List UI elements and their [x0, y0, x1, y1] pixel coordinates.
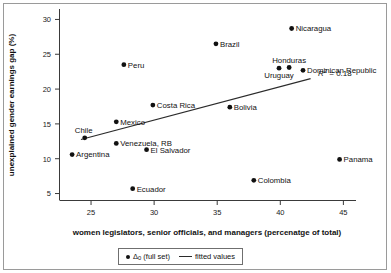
- point-label: Argentina: [76, 150, 110, 159]
- legend-marker-icon: [126, 255, 130, 259]
- y-tick-label: 5: [47, 189, 51, 198]
- point-marker: [150, 103, 155, 108]
- x-tick-label: 40: [276, 208, 284, 217]
- x-tick-label: 35: [213, 208, 221, 217]
- point-marker: [301, 68, 306, 73]
- point-marker: [144, 147, 149, 152]
- x-tick-label: 25: [87, 208, 95, 217]
- y-tick-label: 10: [43, 155, 51, 164]
- point-marker: [114, 141, 119, 146]
- point-label: Costa Rica: [157, 101, 196, 110]
- x-tick-label: 45: [339, 208, 347, 217]
- point-marker: [214, 41, 219, 46]
- data-point[interactable]: Mexico: [114, 118, 146, 127]
- point-marker: [287, 65, 292, 70]
- point-label: El Salvador: [151, 146, 191, 155]
- point-marker: [70, 152, 75, 157]
- y-tick-label: 15: [43, 120, 51, 129]
- point-marker: [114, 119, 119, 124]
- point-marker: [82, 135, 87, 140]
- data-point[interactable]: Chile: [75, 126, 93, 140]
- point-marker: [337, 157, 342, 162]
- data-point[interactable]: El Salvador: [144, 146, 191, 155]
- data-point[interactable]: Peru: [121, 61, 144, 70]
- y-tick-label: 30: [43, 15, 51, 24]
- y-tick-label: 25: [43, 50, 51, 59]
- point-label: Nicaragua: [296, 24, 332, 33]
- data-point[interactable]: Argentina: [70, 150, 110, 159]
- legend-item-fitted[interactable]: fitted values: [179, 252, 235, 261]
- legend-item-scatter[interactable]: Δ0 (full set): [126, 252, 170, 261]
- r-squared-annotation: R2 = 0.18: [318, 68, 352, 78]
- legend-label-fitted: fitted values: [195, 252, 235, 261]
- y-axis-ticks: 51015202530: [43, 15, 60, 198]
- point-label: Uruguay: [264, 71, 294, 80]
- y-axis-title: unexplained gender earnings gap (%): [7, 34, 16, 177]
- point-marker: [289, 26, 294, 31]
- fitted-values-line: [81, 79, 311, 140]
- data-point[interactable]: Ecuador: [130, 185, 166, 194]
- figure-container: 51015202530 2530354045 ArgentinaChileMex…: [0, 0, 391, 273]
- data-point[interactable]: Bolivia: [227, 103, 257, 112]
- point-marker: [130, 186, 135, 191]
- point-label: Peru: [128, 61, 144, 70]
- point-marker: [227, 105, 232, 110]
- x-axis-ticks: 2530354045: [87, 201, 348, 218]
- y-tick-label: 20: [43, 85, 51, 94]
- point-label: Brazil: [220, 40, 240, 49]
- chart-legend: Δ0 (full set) fitted values: [118, 248, 243, 265]
- point-label: Honduras: [272, 56, 306, 65]
- point-label: Mexico: [120, 118, 145, 127]
- data-point[interactable]: Costa Rica: [150, 101, 195, 110]
- legend-line-icon: [179, 256, 192, 257]
- point-label: Bolivia: [234, 103, 258, 112]
- point-label: Panama: [344, 155, 374, 164]
- x-tick-label: 30: [150, 208, 158, 217]
- data-points-group: ArgentinaChileMexicoVenezuela, RBPeruEcu…: [70, 24, 377, 193]
- x-axis-title: women legislators, senior officials, and…: [72, 228, 342, 237]
- point-label: Chile: [75, 126, 93, 135]
- data-point[interactable]: Panama: [337, 155, 373, 164]
- data-point[interactable]: Nicaragua: [289, 24, 332, 33]
- point-marker: [121, 62, 126, 67]
- point-label: Colombia: [258, 176, 292, 185]
- point-marker: [251, 178, 256, 183]
- data-point[interactable]: Colombia: [251, 176, 291, 185]
- legend-label-scatter: Δ0 (full set): [133, 252, 170, 261]
- data-point[interactable]: Brazil: [214, 40, 240, 49]
- fit-line-segment: [81, 79, 311, 140]
- scatter-plot: 51015202530 2530354045 ArgentinaChileMex…: [0, 0, 391, 273]
- point-label: Ecuador: [137, 185, 166, 194]
